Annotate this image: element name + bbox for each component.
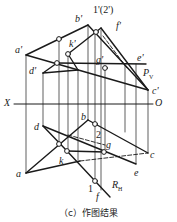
label-k-prime: k' <box>69 39 76 49</box>
label-g: g <box>106 140 111 150</box>
label-e-prime: e' <box>137 53 144 63</box>
label-d: d <box>34 122 39 132</box>
label-b-prime: b' <box>75 14 82 24</box>
label-o-axis: O <box>155 98 162 108</box>
label-2: 2 <box>96 130 101 140</box>
label-rh: RH <box>112 180 122 192</box>
label-f-prime: f' <box>116 21 121 31</box>
projection-diagram: b' 1'(2') f' a' k' g' e' d' PV c' X O b … <box>0 0 177 222</box>
label-k: k <box>59 156 63 166</box>
label-f: f <box>96 192 99 202</box>
label-1-2-prime: 1'(2') <box>93 5 113 15</box>
hidden-edge-ac <box>80 153 148 161</box>
label-b: b <box>81 112 86 122</box>
triangle-abc-prime <box>26 25 148 90</box>
label-pv: PV <box>143 68 153 80</box>
label-d-prime: d' <box>29 66 36 76</box>
label-1: 1 <box>88 184 93 194</box>
label-e: e <box>134 168 138 178</box>
label-a-prime: a' <box>15 45 22 55</box>
label-c-prime: c' <box>152 86 159 96</box>
label-g-prime: g' <box>96 55 103 65</box>
label-pv-sub: V <box>149 74 153 80</box>
label-rh-sub: H <box>118 186 122 192</box>
figure-caption: （c）作图结果 <box>0 206 177 219</box>
projection-lines <box>26 25 148 190</box>
label-c: c <box>150 150 154 160</box>
label-a: a <box>16 169 21 179</box>
label-x-axis: X <box>4 98 10 108</box>
